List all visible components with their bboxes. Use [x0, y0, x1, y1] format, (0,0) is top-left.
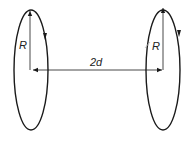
- separation-line: 2d: [33, 56, 162, 70]
- coaxial-loops-diagram: R 2d R: [0, 0, 189, 145]
- right-radius-label: R: [152, 40, 160, 52]
- right-loop: R: [145, 8, 181, 130]
- left-current-direction-arrow-icon: [43, 33, 47, 40]
- left-radius-label: R: [19, 39, 27, 51]
- separation-label: 2d: [89, 56, 103, 68]
